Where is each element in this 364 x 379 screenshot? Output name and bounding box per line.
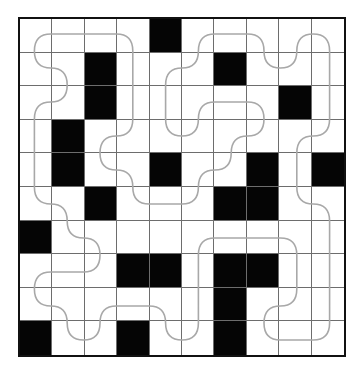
black-cell[interactable] — [247, 153, 279, 187]
white-cell[interactable] — [20, 254, 52, 288]
white-cell[interactable] — [182, 221, 214, 255]
white-cell[interactable] — [182, 120, 214, 154]
white-cell[interactable] — [20, 120, 52, 154]
white-cell[interactable] — [117, 288, 149, 322]
white-cell[interactable] — [279, 321, 311, 355]
black-cell[interactable] — [85, 187, 117, 221]
white-cell[interactable] — [312, 19, 344, 53]
white-cell[interactable] — [182, 321, 214, 355]
black-cell[interactable] — [117, 321, 149, 355]
white-cell[interactable] — [312, 288, 344, 322]
white-cell[interactable] — [214, 153, 246, 187]
white-cell[interactable] — [85, 321, 117, 355]
white-cell[interactable] — [117, 153, 149, 187]
black-cell[interactable] — [247, 254, 279, 288]
white-cell[interactable] — [214, 120, 246, 154]
white-cell[interactable] — [247, 288, 279, 322]
white-cell[interactable] — [150, 86, 182, 120]
white-cell[interactable] — [20, 153, 52, 187]
black-cell[interactable] — [20, 321, 52, 355]
white-cell[interactable] — [117, 221, 149, 255]
white-cell[interactable] — [247, 321, 279, 355]
white-cell[interactable] — [279, 53, 311, 87]
black-cell[interactable] — [279, 86, 311, 120]
white-cell[interactable] — [85, 153, 117, 187]
black-cell[interactable] — [214, 288, 246, 322]
white-cell[interactable] — [247, 221, 279, 255]
white-cell[interactable] — [85, 19, 117, 53]
white-cell[interactable] — [20, 19, 52, 53]
white-cell[interactable] — [182, 19, 214, 53]
white-cell[interactable] — [279, 254, 311, 288]
black-cell[interactable] — [85, 86, 117, 120]
white-cell[interactable] — [150, 288, 182, 322]
white-cell[interactable] — [85, 120, 117, 154]
white-cell[interactable] — [117, 19, 149, 53]
white-cell[interactable] — [150, 221, 182, 255]
black-cell[interactable] — [150, 254, 182, 288]
white-cell[interactable] — [312, 221, 344, 255]
black-cell[interactable] — [214, 53, 246, 87]
black-cell[interactable] — [214, 254, 246, 288]
black-cell[interactable] — [312, 153, 344, 187]
white-cell[interactable] — [214, 86, 246, 120]
white-cell[interactable] — [182, 254, 214, 288]
black-cell[interactable] — [214, 321, 246, 355]
white-cell[interactable] — [20, 288, 52, 322]
white-cell[interactable] — [150, 120, 182, 154]
white-cell[interactable] — [182, 153, 214, 187]
white-cell[interactable] — [52, 221, 84, 255]
white-cell[interactable] — [85, 288, 117, 322]
white-cell[interactable] — [312, 254, 344, 288]
white-cell[interactable] — [150, 53, 182, 87]
black-cell[interactable] — [150, 19, 182, 53]
white-cell[interactable] — [182, 187, 214, 221]
white-cell[interactable] — [312, 86, 344, 120]
black-cell[interactable] — [20, 221, 52, 255]
white-cell[interactable] — [20, 187, 52, 221]
white-cell[interactable] — [52, 19, 84, 53]
white-cell[interactable] — [85, 254, 117, 288]
white-cell[interactable] — [117, 53, 149, 87]
white-cell[interactable] — [20, 53, 52, 87]
white-cell[interactable] — [85, 221, 117, 255]
white-cell[interactable] — [20, 86, 52, 120]
white-cell[interactable] — [182, 86, 214, 120]
white-cell[interactable] — [247, 53, 279, 87]
white-cell[interactable] — [214, 221, 246, 255]
black-cell[interactable] — [52, 120, 84, 154]
white-cell[interactable] — [52, 288, 84, 322]
white-cell[interactable] — [279, 288, 311, 322]
white-cell[interactable] — [247, 19, 279, 53]
black-cell[interactable] — [214, 187, 246, 221]
white-cell[interactable] — [182, 288, 214, 322]
white-cell[interactable] — [182, 53, 214, 87]
white-cell[interactable] — [279, 19, 311, 53]
white-cell[interactable] — [117, 120, 149, 154]
white-cell[interactable] — [312, 53, 344, 87]
white-cell[interactable] — [52, 187, 84, 221]
white-cell[interactable] — [312, 321, 344, 355]
white-cell[interactable] — [312, 120, 344, 154]
white-cell[interactable] — [150, 321, 182, 355]
white-cell[interactable] — [279, 221, 311, 255]
white-cell[interactable] — [150, 187, 182, 221]
black-cell[interactable] — [150, 153, 182, 187]
white-cell[interactable] — [117, 187, 149, 221]
white-cell[interactable] — [52, 86, 84, 120]
black-cell[interactable] — [117, 254, 149, 288]
white-cell[interactable] — [312, 187, 344, 221]
black-cell[interactable] — [85, 53, 117, 87]
white-cell[interactable] — [52, 321, 84, 355]
white-cell[interactable] — [279, 187, 311, 221]
black-cell[interactable] — [247, 187, 279, 221]
black-cell[interactable] — [52, 153, 84, 187]
white-cell[interactable] — [117, 86, 149, 120]
white-cell[interactable] — [247, 120, 279, 154]
white-cell[interactable] — [52, 254, 84, 288]
white-cell[interactable] — [247, 86, 279, 120]
white-cell[interactable] — [279, 153, 311, 187]
white-cell[interactable] — [214, 19, 246, 53]
white-cell[interactable] — [52, 53, 84, 87]
white-cell[interactable] — [279, 120, 311, 154]
